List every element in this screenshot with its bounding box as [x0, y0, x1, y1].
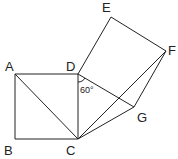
- point-label-C: C: [66, 143, 75, 158]
- point-label-B: B: [4, 143, 13, 158]
- point-label-E: E: [102, 0, 111, 15]
- segment-EF: [111, 17, 166, 51]
- geometry-diagram: 60° ABCDEFG: [0, 0, 178, 159]
- point-label-G: G: [137, 110, 147, 125]
- segment-AC: [15, 74, 78, 139]
- point-label-F: F: [168, 43, 176, 58]
- angle-arc: [78, 78, 85, 82]
- point-label-D: D: [66, 59, 75, 74]
- segment-CG: [78, 107, 134, 139]
- angle-label: 60°: [80, 85, 94, 95]
- segment-CF: [78, 51, 166, 139]
- point-label-A: A: [5, 59, 14, 74]
- segment-FG: [134, 51, 166, 107]
- segment-DE: [78, 17, 111, 74]
